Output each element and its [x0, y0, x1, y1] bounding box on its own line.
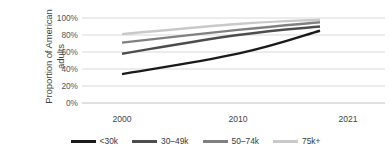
legend-swatch-icon: [71, 140, 96, 143]
legend-item-0[interactable]: <30k: [71, 136, 118, 146]
legend-item-3[interactable]: 75k+: [273, 136, 320, 146]
legend-item-2[interactable]: 50–74k: [203, 136, 259, 146]
x-tick-2021: 2021: [338, 114, 357, 124]
legend-swatch-icon: [132, 140, 157, 143]
data-series-group: [122, 20, 320, 74]
plot-area: [0, 0, 391, 158]
legend-swatch-icon: [273, 140, 298, 143]
legend-label: <30k: [100, 136, 118, 146]
line-chart: Proportion of American adults 100% 80% 6…: [0, 0, 391, 158]
legend-label: 50–74k: [232, 136, 259, 146]
x-tick-2000: 2000: [112, 114, 131, 124]
legend-item-1[interactable]: 30–49k: [132, 136, 188, 146]
chart-legend: <30k30–49k50–74k75k+: [0, 136, 391, 146]
legend-label: 30–49k: [161, 136, 188, 146]
legend-swatch-icon: [203, 140, 228, 143]
x-tick-2010: 2010: [228, 114, 247, 124]
legend-label: 75k+: [302, 136, 320, 146]
